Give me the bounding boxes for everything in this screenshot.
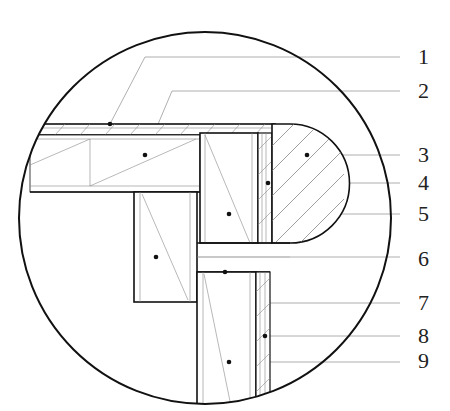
callout-label-7: 7 <box>418 292 429 314</box>
leader-1 <box>110 57 400 124</box>
rounded-cap <box>272 124 350 243</box>
callout-label-9: 9 <box>418 350 429 372</box>
callout-label-2: 2 <box>418 80 429 102</box>
callout-label-8: 8 <box>418 325 429 347</box>
callout-label-5: 5 <box>418 203 429 225</box>
callout-label-1: 1 <box>418 46 429 68</box>
callout-label-4: 4 <box>418 172 429 194</box>
callout-label-3: 3 <box>418 144 429 166</box>
callout-label-6: 6 <box>418 248 429 270</box>
section-detail-svg <box>0 0 450 411</box>
section-content <box>30 124 350 411</box>
detail-drawing: 1 2 3 4 5 6 7 8 9 <box>0 0 450 411</box>
